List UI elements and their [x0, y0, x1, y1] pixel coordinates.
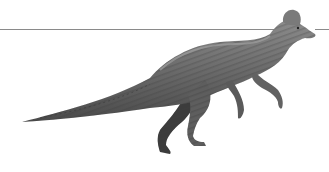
dinosaur-illustration [0, 0, 329, 172]
eye [297, 27, 299, 29]
hadrosaur-figure [0, 0, 329, 172]
far-arm [252, 72, 283, 109]
head-crest [283, 10, 301, 25]
near-arm [226, 80, 244, 119]
